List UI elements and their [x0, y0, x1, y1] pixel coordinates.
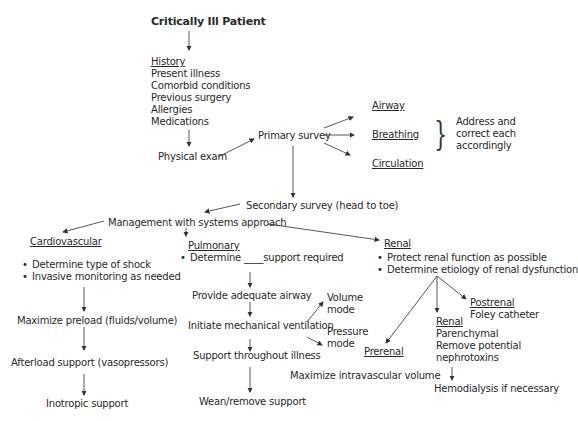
postrenal-action: Foley catheter — [470, 309, 539, 321]
history-heading: History — [151, 56, 250, 68]
management-node: Management with systems approach — [108, 217, 286, 229]
pulm-step-ventilation: Initiate mechanical ventilation — [188, 320, 334, 332]
cardio-bullet: Determine type of shock — [22, 259, 181, 271]
history-item: Allergies — [151, 104, 250, 116]
pulm-step-support: Support throughout illness — [193, 350, 321, 362]
prerenal-action: Maximize intravascular volume — [290, 370, 440, 382]
renal-bullets: Protect renal function as possible Deter… — [377, 252, 578, 276]
cardio-step-inotropic: Inotropic support — [46, 398, 128, 410]
circulation-node: Circulation — [372, 158, 423, 170]
airway-node: Airway — [372, 100, 405, 112]
mode-line: Pressure — [327, 326, 368, 338]
breathing-node: Breathing — [372, 129, 419, 141]
physical-exam-node: Physical exam — [158, 151, 227, 163]
cardiovascular-heading: Cardiovascular — [30, 236, 102, 248]
cardiovascular-bullets: Determine type of shock Invasive monitor… — [22, 259, 181, 283]
history-item: Medications — [151, 116, 250, 128]
pulm-step-airway: Provide adequate airway — [192, 290, 312, 302]
history-item: Previous surgery — [151, 92, 250, 104]
history-item: Present illness — [151, 68, 250, 80]
pulm-step-wean: Wean/remove support — [199, 396, 306, 408]
cardio-step-afterload: Afterload support (vasopressors) — [11, 357, 168, 369]
mode-line: mode — [327, 338, 368, 350]
intrinsic-renal-block: Renal Parenchymal Remove potential nephr… — [436, 316, 521, 364]
intrinsic-line: nephrotoxins — [436, 352, 521, 364]
volume-mode-node: Volume mode — [327, 292, 363, 316]
pulmonary-bullet: Determine ____support required — [180, 252, 344, 264]
history-item: Comorbid conditions — [151, 80, 250, 92]
pulmonary-heading: Pulmonary — [188, 240, 240, 252]
note-line: accordingly — [456, 140, 516, 152]
renal-bullet: Determine etiology of renal dysfunction — [377, 264, 578, 276]
diagram-title: Critically Ill Patient — [151, 16, 266, 28]
mode-line: Volume — [327, 292, 363, 304]
primary-survey-node: Primary survey — [258, 130, 331, 142]
renal-heading: Renal — [384, 238, 411, 250]
pressure-mode-node: Pressure mode — [327, 326, 368, 350]
intrinsic-line: Parenchymal — [436, 328, 521, 340]
renal-bullet: Protect renal function as possible — [377, 252, 578, 264]
mode-line: mode — [327, 304, 363, 316]
postrenal-block: Postrenal Foley catheter — [470, 297, 539, 321]
hemodialysis-node: Hemodialysis if necessary — [434, 383, 559, 395]
cardio-bullet: Invasive monitoring as needed — [22, 271, 181, 283]
history-block: History Present illness Comorbid conditi… — [151, 56, 250, 128]
note-line: Address and — [456, 116, 516, 128]
intrinsic-line: Remove potential — [436, 340, 521, 352]
note-line: correct each — [456, 128, 516, 140]
prerenal-heading: Prerenal — [364, 346, 404, 358]
curly-brace-icon: } — [434, 116, 447, 150]
secondary-survey-node: Secondary survey (head to toe) — [246, 200, 398, 212]
primary-survey-note: Address and correct each accordingly — [456, 116, 516, 152]
postrenal-heading: Postrenal — [470, 297, 539, 309]
cardio-step-preload: Maximize preload (fluids/volume) — [17, 315, 177, 327]
